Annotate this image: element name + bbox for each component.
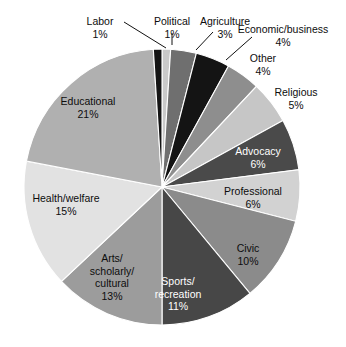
slice-label: Religious5% (274, 86, 317, 111)
pie-chart-svg: Political1%Agriculture3%Economic/busines… (0, 0, 346, 347)
slice-label: Economic/business4% (238, 23, 328, 48)
slice-label: Political1% (154, 15, 190, 40)
leader-line (226, 37, 252, 60)
slice-label: Civic10% (237, 242, 260, 267)
slice-label: Other4% (250, 52, 277, 77)
slice-label: Labor1% (87, 15, 114, 40)
pie-chart: Political1%Agriculture3%Economic/busines… (0, 0, 346, 347)
leader-line (196, 32, 213, 50)
